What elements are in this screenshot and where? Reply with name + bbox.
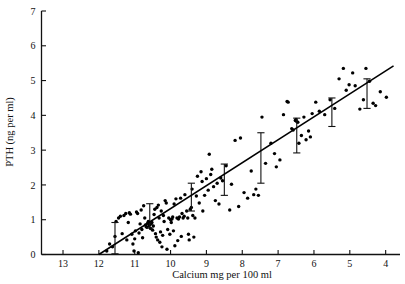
- data-point: [142, 204, 145, 207]
- data-point: [199, 170, 202, 173]
- data-point: [379, 90, 382, 93]
- data-point: [129, 212, 132, 215]
- data-point: [196, 175, 199, 178]
- data-point: [143, 216, 146, 219]
- data-point: [157, 203, 160, 206]
- y-axis-tick-labels: 01234567: [31, 6, 36, 261]
- data-point: [120, 232, 123, 235]
- scatter-plot-figure: 13121110987654 01234567 Calcium mg per 1…: [0, 0, 405, 284]
- x-tick-label: 4: [383, 258, 388, 269]
- data-point: [160, 245, 163, 248]
- data-point: [137, 251, 140, 254]
- data-point: [275, 165, 278, 168]
- data-point: [371, 101, 374, 104]
- data-point: [304, 138, 307, 141]
- data-point: [160, 209, 163, 212]
- data-point: [165, 248, 168, 251]
- y-tick-label: 3: [31, 145, 36, 156]
- data-point: [165, 201, 168, 204]
- data-point: [254, 187, 257, 190]
- data-point: [233, 139, 236, 142]
- x-tick-label: 8: [240, 258, 245, 269]
- data-point: [351, 71, 354, 74]
- data-point: [183, 193, 186, 196]
- data-point: [182, 215, 185, 218]
- data-point: [171, 215, 174, 218]
- data-point: [309, 135, 312, 138]
- data-point: [161, 234, 164, 237]
- data-point: [333, 107, 336, 110]
- data-point: [307, 129, 310, 132]
- y-tick-label: 2: [31, 180, 36, 191]
- data-point: [186, 216, 189, 219]
- data-point: [353, 84, 356, 87]
- data-point: [210, 168, 213, 171]
- data-point: [237, 205, 240, 208]
- data-point: [347, 83, 350, 86]
- data-point: [127, 221, 130, 224]
- data-point: [174, 197, 177, 200]
- data-point: [228, 208, 231, 211]
- data-point: [179, 196, 182, 199]
- data-point: [246, 196, 249, 199]
- data-point: [158, 241, 161, 244]
- data-point: [188, 238, 191, 241]
- data-point: [358, 107, 361, 110]
- data-point: [209, 173, 212, 176]
- data-point: [264, 162, 267, 165]
- data-point: [323, 113, 326, 116]
- data-point: [198, 201, 201, 204]
- data-point: [300, 134, 303, 137]
- data-point: [180, 235, 183, 238]
- data-point: [192, 235, 195, 238]
- y-tick-label: 4: [31, 110, 36, 121]
- data-point: [314, 100, 317, 103]
- data-point: [136, 212, 139, 215]
- data-point: [162, 220, 165, 223]
- data-point: [133, 237, 136, 240]
- x-tick-label: 12: [94, 258, 104, 269]
- data-point: [214, 199, 217, 202]
- data-point: [273, 152, 276, 155]
- data-point: [217, 202, 220, 205]
- data-point: [141, 236, 144, 239]
- data-point: [132, 249, 135, 252]
- data-point: [297, 141, 300, 144]
- data-point: [342, 67, 345, 70]
- data-point: [278, 158, 281, 161]
- data-point: [173, 244, 176, 247]
- y-axis-title: PTH (ng per ml): [4, 97, 16, 167]
- data-point: [137, 231, 140, 234]
- y-tick-label: 5: [31, 75, 36, 86]
- data-point: [152, 224, 155, 227]
- data-point: [159, 230, 162, 233]
- data-point: [239, 136, 242, 139]
- data-point: [205, 177, 208, 180]
- y-axis-ticks: [42, 11, 47, 255]
- data-point: [302, 115, 305, 118]
- data-point: [362, 98, 365, 101]
- data-point: [250, 169, 253, 172]
- x-axis-title: Calcium mg per 100 ml: [172, 269, 272, 280]
- y-tick-label: 7: [31, 6, 36, 17]
- data-point: [207, 188, 210, 191]
- data-point: [221, 179, 224, 182]
- x-axis-tick-labels: 13121110987654: [58, 258, 388, 269]
- data-point: [151, 228, 154, 231]
- data-point: [203, 194, 206, 197]
- data-point: [178, 215, 181, 218]
- data-point: [195, 194, 198, 197]
- data-point: [108, 242, 111, 245]
- data-point: [286, 100, 289, 103]
- y-tick-label: 6: [31, 40, 36, 51]
- axis-lines: [42, 11, 401, 255]
- data-point: [208, 153, 211, 156]
- data-point: [364, 67, 367, 70]
- data-point: [166, 228, 169, 231]
- data-point: [215, 181, 218, 184]
- data-point: [154, 232, 157, 235]
- data-point: [385, 96, 388, 99]
- data-point: [337, 77, 340, 80]
- x-tick-label: 9: [204, 258, 209, 269]
- data-point: [374, 104, 377, 107]
